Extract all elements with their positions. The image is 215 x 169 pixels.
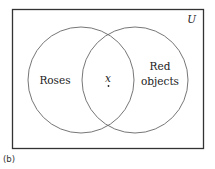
set-label-red-objects-line1: Red (150, 60, 171, 72)
element-point (108, 85, 110, 87)
set-label-red-objects-line2: objects (141, 75, 179, 87)
universe-label: U (187, 13, 197, 25)
set-label-roses: Roses (39, 74, 70, 86)
venn-diagram: U Roses Red objects x (b) (0, 0, 215, 169)
figure-caption: (b) (3, 154, 15, 164)
element-label: x (105, 72, 111, 84)
